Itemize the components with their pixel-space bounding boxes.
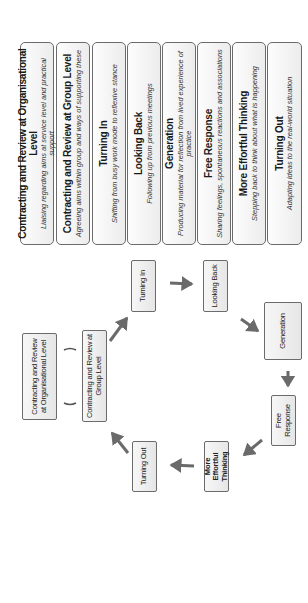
node-label: Generation <box>279 313 287 349</box>
node-generation: Generation <box>264 302 302 360</box>
node-more-effortful-thinking: More Effortful Thinking <box>204 441 229 492</box>
node-free-response: Free Response <box>271 395 296 446</box>
node-label: Looking Back <box>211 264 219 307</box>
node-label: More Effortful Thinking <box>204 444 229 489</box>
node-looking-back: Looking Back <box>203 260 228 312</box>
node-group-level: Contracting and Review at Group Level <box>82 330 107 422</box>
node-turning-in: Turning In <box>131 260 156 312</box>
node-org-level: Contracting and Review at Organisational… <box>22 333 57 420</box>
bracket-connector <box>64 349 76 405</box>
node-label: Contracting and Review at Organisational… <box>31 336 48 417</box>
node-label: Free Response <box>275 398 292 443</box>
node-label: Turning In <box>139 270 147 302</box>
node-turning-out: Turning Out <box>132 441 157 492</box>
node-label: Turning Out <box>140 448 148 486</box>
diagram-stage: Contracting and Review at Organisational… <box>0 0 308 603</box>
node-label: Contracting and Review at Group Level <box>86 333 103 419</box>
